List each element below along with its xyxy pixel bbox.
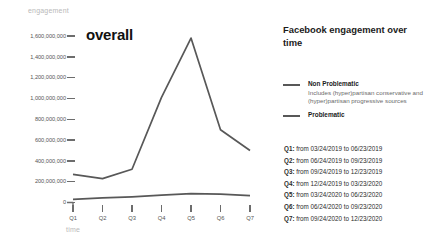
x-tick-label: Q2 <box>95 215 111 221</box>
quarter-definitions-list: Q1: from 03/24/2019 to 06/23/2019Q2: fro… <box>284 143 431 224</box>
x-tick-label: Q7 <box>242 215 258 221</box>
x-tick-mark <box>102 205 103 212</box>
x-tick-mark <box>249 205 250 212</box>
legend-line-icon <box>283 115 300 117</box>
info-title: Facebook engagement over time <box>283 24 428 49</box>
x-axis-title: time <box>66 226 80 233</box>
quarter-definition: Q2: from 06/24/2019 to 09/23/2019 <box>284 155 431 167</box>
legend-item: Non ProblematicIncludes (hyper)partisan … <box>283 80 431 105</box>
legend-label: Problematic <box>308 111 431 120</box>
chart-panel: engagement overall 0200,000,000400,000,0… <box>0 0 272 242</box>
x-tick-mark <box>190 205 191 212</box>
chart-legend: Non ProblematicIncludes (hyper)partisan … <box>283 80 431 119</box>
x-tick-mark <box>131 205 132 212</box>
x-tick-label: Q5 <box>183 215 199 221</box>
quarter-definition: Q5: from 03/24/2020 to 06/23/2020 <box>284 189 431 201</box>
quarter-definition: Q3: from 09/24/2019 to 12/23/2019 <box>284 166 431 178</box>
quarter-definition: Q6: from 06/24/2020 to 09/23/2020 <box>284 201 431 213</box>
legend-line-icon <box>283 84 300 86</box>
info-panel: Facebook engagement over time Non Proble… <box>283 0 431 242</box>
legend-label: Non Problematic <box>308 80 431 89</box>
x-tick-label: Q1 <box>65 215 81 221</box>
chart-page: engagement overall 0200,000,000400,000,0… <box>0 0 431 242</box>
x-tick-label: Q3 <box>124 215 140 221</box>
x-tick-label: Q4 <box>154 215 170 221</box>
quarter-definition: Q1: from 03/24/2019 to 06/23/2019 <box>284 143 431 155</box>
x-tick-mark <box>161 205 162 212</box>
x-tick-label: Q6 <box>213 215 229 221</box>
legend-item: Problematic <box>283 111 431 120</box>
quarter-definition: Q7: from 09/24/2020 to 12/23/2020 <box>284 213 431 225</box>
quarter-definition: Q4: from 12/24/2019 to 03/23/2020 <box>284 178 431 190</box>
x-tick-mark <box>220 205 221 212</box>
x-axis-ticks: Q1Q2Q3Q4Q5Q6Q7 <box>0 0 272 242</box>
legend-description: Includes (hyper)partisan conservative an… <box>308 89 431 105</box>
x-tick-mark <box>72 205 73 212</box>
